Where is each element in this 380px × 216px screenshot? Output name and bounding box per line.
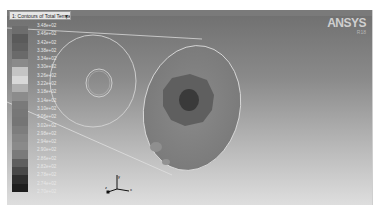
legend-swatch xyxy=(12,167,28,175)
legend-value: 3.10e+02 xyxy=(37,106,56,111)
legend-value: 3.18e+02 xyxy=(37,89,56,94)
legend-value: 3.02e+02 xyxy=(37,123,56,128)
contour-selector-label: 1: Contours of Total Tempera xyxy=(12,13,71,19)
legend-swatch xyxy=(12,192,28,200)
graphics-viewport[interactable]: 1: Contours of Total Tempera ▼ ANSYS R18… xyxy=(7,10,373,205)
legend-swatch xyxy=(12,26,28,34)
legend-value: 2.78e+02 xyxy=(37,172,56,177)
svg-text:y: y xyxy=(118,174,120,179)
legend-row: 2.70e+02 xyxy=(12,192,72,200)
legend-swatch xyxy=(12,159,28,167)
legend-value: 3.46e+02 xyxy=(37,31,56,36)
legend-swatch xyxy=(12,184,28,192)
legend-swatch xyxy=(12,34,28,42)
axes-triad-icon: y x z xyxy=(105,173,135,195)
legend-value: 3.38e+02 xyxy=(37,48,56,53)
legend-value: 2.94e+02 xyxy=(37,139,56,144)
legend-value: 2.70e+02 xyxy=(37,189,56,194)
svg-text:z: z xyxy=(105,185,107,190)
legend-swatch xyxy=(12,101,28,109)
legend-swatch xyxy=(12,43,28,51)
legend-swatch xyxy=(12,76,28,84)
legend-value: 3.26e+02 xyxy=(37,73,56,78)
legend-swatch xyxy=(12,134,28,142)
legend-swatch xyxy=(12,150,28,158)
legend-value: 3.30e+02 xyxy=(37,64,56,69)
contour-selector-dropdown[interactable]: 1: Contours of Total Tempera ▼ xyxy=(9,11,71,20)
legend-value: 2.74e+02 xyxy=(37,181,56,186)
ansys-logo: ANSYS xyxy=(327,16,366,30)
legend-value: 3.06e+02 xyxy=(37,114,56,119)
legend-swatch xyxy=(12,51,28,59)
legend-swatch xyxy=(12,109,28,117)
svg-text:x: x xyxy=(130,187,132,192)
legend-swatch xyxy=(12,175,28,183)
legend-value: 2.86e+02 xyxy=(37,156,56,161)
legend-value: 3.22e+02 xyxy=(37,81,56,86)
color-legend: 3.48e+023.46e+023.42e+023.38e+023.34e+02… xyxy=(12,26,72,200)
chevron-down-icon: ▼ xyxy=(64,12,69,20)
legend-value: 3.48e+02 xyxy=(37,23,56,28)
ansys-version: R18 xyxy=(357,29,366,35)
legend-swatch xyxy=(12,126,28,134)
legend-value: 3.34e+02 xyxy=(37,56,56,61)
legend-value: 2.82e+02 xyxy=(37,164,56,169)
legend-swatch xyxy=(12,92,28,100)
legend-swatch xyxy=(12,142,28,150)
legend-swatch xyxy=(12,67,28,75)
legend-value: 3.14e+02 xyxy=(37,98,56,103)
legend-swatch xyxy=(12,84,28,92)
legend-swatch xyxy=(12,59,28,67)
legend-value: 2.98e+02 xyxy=(37,131,56,136)
legend-value: 2.90e+02 xyxy=(37,147,56,152)
legend-value: 3.42e+02 xyxy=(37,40,56,45)
legend-swatch xyxy=(12,117,28,125)
